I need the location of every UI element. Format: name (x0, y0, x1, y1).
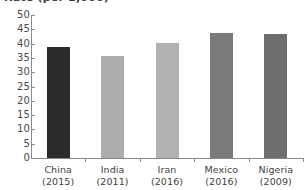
chart-title: Rate (per 1,000) (4, 0, 109, 4)
x-label-year: (2016) (140, 176, 194, 188)
x-label-china: China(2015) (31, 164, 85, 188)
y-tick-10 (31, 129, 35, 130)
y-tick-50 (31, 15, 35, 16)
x-tick-3 (194, 158, 195, 162)
y-tick-25 (31, 87, 35, 88)
x-axis-line (31, 158, 303, 159)
y-tick-label-40: 40 (17, 39, 30, 49)
y-tick-0 (31, 158, 35, 159)
y-tick-label-5: 5 (23, 139, 30, 149)
x-label-name: Iran (158, 164, 177, 175)
y-tick-label-45: 45 (17, 24, 30, 34)
x-tick-4 (249, 158, 250, 162)
bar-nigeria[interactable] (264, 34, 287, 158)
y-tick-label-30: 30 (17, 67, 30, 77)
y-tick-40 (31, 44, 35, 45)
x-label-name: China (44, 164, 72, 175)
bar-india[interactable] (101, 56, 124, 158)
x-label-mexico: Mexico(2016) (194, 164, 248, 188)
y-tick-label-10: 10 (17, 124, 30, 134)
y-tick-35 (31, 58, 35, 59)
x-tick-2 (140, 158, 141, 162)
y-tick-label-50: 50 (17, 10, 30, 20)
x-label-name: Nigeria (258, 164, 293, 175)
x-label-name: India (101, 164, 125, 175)
bar-iran[interactable] (156, 43, 179, 158)
x-label-year: (2009) (249, 176, 303, 188)
bar-china[interactable] (47, 47, 70, 158)
y-tick-label-35: 35 (17, 53, 30, 63)
y-tick-label-15: 15 (17, 110, 30, 120)
x-tick-end (303, 158, 304, 162)
x-label-iran: Iran(2016) (140, 164, 194, 188)
y-tick-5 (31, 144, 35, 145)
x-label-name: Mexico (204, 164, 238, 175)
x-label-year: (2015) (31, 176, 85, 188)
y-tick-15 (31, 115, 35, 116)
x-label-year: (2011) (85, 176, 139, 188)
x-label-nigeria: Nigeria(2009) (249, 164, 303, 188)
x-tick-1 (85, 158, 86, 162)
y-tick-label-20: 20 (17, 96, 30, 106)
x-label-year: (2016) (194, 176, 248, 188)
y-tick-30 (31, 72, 35, 73)
bar-chart: Rate (per 1,000) 05101520253035404550 Ch… (0, 0, 308, 190)
y-tick-45 (31, 29, 35, 30)
y-tick-label-25: 25 (17, 82, 30, 92)
x-label-india: India(2011) (85, 164, 139, 188)
y-tick-20 (31, 101, 35, 102)
y-tick-label-0: 0 (23, 153, 30, 163)
bar-mexico[interactable] (210, 33, 233, 158)
